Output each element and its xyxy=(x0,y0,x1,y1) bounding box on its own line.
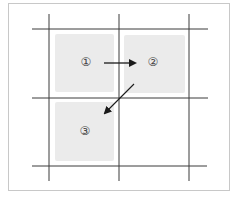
cell-3-label: ③ xyxy=(75,121,95,141)
cell-1-label: ① xyxy=(76,52,96,72)
cell-2-label: ② xyxy=(143,52,163,72)
grid-diagram xyxy=(0,0,237,200)
